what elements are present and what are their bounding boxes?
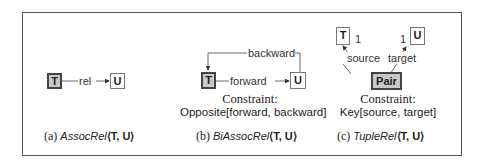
constraint-title: Constraint: [326, 92, 450, 107]
caption-args: ⟨T, U⟩ [397, 130, 425, 142]
multiplicity-right: 1 [400, 33, 406, 45]
node-u: U [290, 72, 306, 89]
caption-name: BiAssocRel [213, 130, 269, 142]
edge-label-target: target [388, 52, 416, 64]
constraint-title: Constraint: [180, 92, 320, 107]
node-t: T [336, 27, 350, 45]
constraint-body: Opposite[forward, backward] [180, 106, 320, 118]
constraint-body: Key[source, target] [326, 106, 450, 118]
caption-name: TupleRel [353, 130, 396, 142]
caption-prefix: (c) [337, 129, 350, 143]
caption-name: AssocRel [60, 130, 106, 142]
caption-b: (b) BiAssocRel⟨T, U⟩ [196, 129, 297, 144]
node-t: T [201, 72, 216, 89]
node-t: T [47, 73, 62, 89]
edge-label-rel: rel [79, 75, 91, 87]
caption-args: ⟨T, U⟩ [107, 130, 135, 142]
caption-args: ⟨T, U⟩ [269, 130, 297, 142]
caption-prefix: (b) [196, 129, 210, 143]
node-u: U [110, 73, 125, 89]
node-pair: Pair [371, 72, 402, 90]
caption-c: (c) TupleRel⟨T, U⟩ [337, 129, 424, 144]
edge-label-source: source [347, 52, 380, 64]
caption-a: (a) AssocRel⟨T, U⟩ [44, 129, 134, 144]
edge-label-backward: backward [248, 47, 295, 59]
edge-label-forward: forward [230, 75, 267, 87]
multiplicity-left: 1 [355, 33, 361, 45]
node-u: U [410, 27, 425, 45]
caption-prefix: (a) [44, 129, 57, 143]
